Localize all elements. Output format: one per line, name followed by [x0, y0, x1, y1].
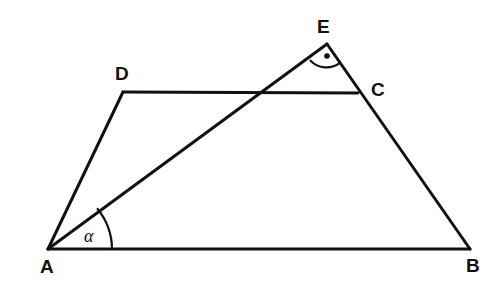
angle-alpha-arc	[98, 209, 112, 249]
vertex-label-b: B	[466, 256, 480, 275]
angle-label-alpha: α	[84, 227, 93, 245]
segment-dc	[123, 92, 358, 93]
vertex-label-c: C	[371, 80, 385, 99]
right-angle-arc-e	[311, 61, 340, 68]
segment-eb	[327, 44, 470, 249]
right-angle-dot-e	[324, 53, 330, 59]
segment-ae	[48, 44, 327, 249]
figure-canvas	[0, 0, 503, 297]
vertex-label-d: D	[115, 64, 129, 83]
geometry-diagram: A B C D E α	[0, 0, 503, 297]
vertex-label-e: E	[317, 17, 330, 36]
vertex-label-a: A	[40, 257, 54, 276]
